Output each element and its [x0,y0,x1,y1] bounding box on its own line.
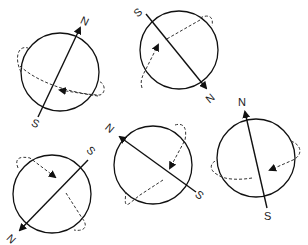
north-label: N [238,96,246,108]
south-label: S [264,210,271,222]
globe-2: N S [131,5,218,105]
north-label: N [103,121,117,135]
orbit-path [17,48,104,95]
south-label: S [193,188,206,202]
globe-5: N S [211,96,300,222]
globe-circle [140,11,218,89]
south-label: S [30,116,42,130]
globe-3: N S [4,144,98,245]
globe-1: N S [17,14,104,131]
direction-arrow-icon [17,157,55,177]
rotation-axis [20,160,88,230]
rotation-axis [38,28,80,117]
globes-diagram: N S N S N S N S N S [0,0,308,245]
globe-4: N S [103,121,206,205]
north-label: N [203,91,217,105]
south-label: S [84,144,98,158]
north-label: N [4,232,18,245]
globe-circle [13,155,91,233]
south-label: S [131,5,144,19]
rotation-axis [245,112,267,208]
north-label: N [79,14,91,28]
orbit-path [125,180,163,205]
orbit-path [165,16,212,40]
